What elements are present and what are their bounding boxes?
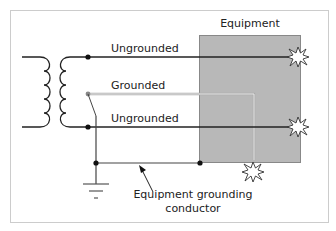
annotation-line-2: conductor [165, 202, 221, 215]
equipment-label: Equipment [220, 17, 280, 30]
junction-dot [197, 160, 202, 165]
conductor-label-ungrounded-top: Ungrounded [111, 42, 179, 55]
junction-dot [93, 160, 98, 165]
equipment-enclosure [200, 36, 301, 163]
junction-dot [85, 54, 90, 59]
annotation-line-1: Equipment grounding [133, 188, 252, 201]
conductor-label-ungrounded-bottom: Ungrounded [111, 112, 179, 125]
conductor-label-grounded: Grounded [111, 79, 165, 92]
grounding-diagram: Equipment Ungrounded Grounded Ungrounded… [0, 0, 336, 231]
junction-dot [85, 124, 90, 129]
